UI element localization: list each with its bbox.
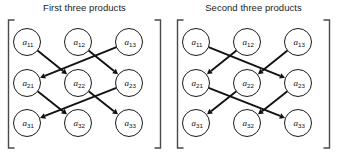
node-a21: a21 [14, 70, 41, 97]
node-a23: a23 [116, 70, 143, 97]
node-a11: a11 [14, 29, 41, 56]
edge-a13-to-a22 [258, 50, 288, 74]
node-a22: a22 [65, 70, 92, 97]
node-a32: a32 [65, 110, 92, 137]
edge-a12-to-a23 [89, 50, 119, 74]
node-a33: a33 [116, 110, 143, 137]
node-a12: a12 [65, 29, 92, 56]
panel-second-three-products: Second three products a11a12a13a21a22a23… [169, 0, 338, 155]
node-a32: a32 [234, 110, 261, 137]
node-a13: a13 [116, 29, 143, 56]
node-a31: a31 [183, 110, 210, 137]
edge-a22-to-a31 [207, 91, 236, 114]
edge-a23-to-a32 [258, 91, 287, 114]
node-a23: a23 [285, 70, 312, 97]
node-a11: a11 [183, 29, 210, 56]
matrix-diagram-second: a11a12a13a21a22a23a31a32a33 [169, 0, 338, 155]
panel-first-three-products: First three products a11a12a13a21a22a23a… [0, 0, 169, 155]
edge-a21-to-a32 [38, 91, 67, 114]
edge-a12-to-a21 [207, 50, 237, 74]
node-a31: a31 [14, 110, 41, 137]
matrix-product-figure: First three products a11a12a13a21a22a23a… [0, 0, 338, 155]
node-a12: a12 [234, 29, 261, 56]
node-a33: a33 [285, 110, 312, 137]
edge-a11-to-a22 [38, 50, 68, 74]
node-a22: a22 [234, 70, 261, 97]
node-a13: a13 [285, 29, 312, 56]
matrix-diagram-first: a11a12a13a21a22a23a31a32a33 [0, 0, 169, 155]
node-a21: a21 [183, 70, 210, 97]
edge-a22-to-a33 [89, 91, 118, 114]
